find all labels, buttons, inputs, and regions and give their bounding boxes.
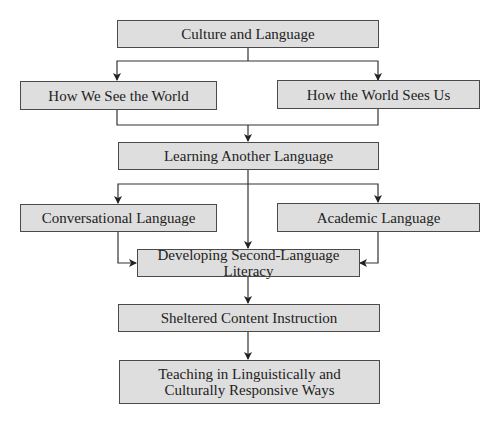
node-label: Culture and Language [181, 26, 314, 42]
node-label: Sheltered Content Instruction [161, 310, 338, 326]
node-label: Conversational Language [42, 210, 196, 226]
node-academic-language: Academic Language [277, 203, 480, 232]
node-culture-and-language: Culture and Language [117, 20, 379, 48]
node-learning-another-language: Learning Another Language [118, 142, 379, 170]
node-conversational-language: Conversational Language [20, 204, 217, 232]
flowchart: Culture and Language How We See the Worl… [0, 0, 500, 421]
node-how-we-see-the-world: How We See the World [20, 81, 217, 110]
node-teaching-responsive-ways: Teaching in Linguistically and Culturall… [119, 360, 380, 404]
node-label: Developing Second-Language Literacy [142, 247, 355, 279]
node-label: Academic Language [317, 210, 441, 226]
edge-how-we-see-down [117, 109, 378, 125]
node-label-line2: Culturally Responsive Ways [164, 382, 334, 398]
edge-academic-to-developing [360, 231, 378, 263]
edge-culture-to-world-sees-us [248, 61, 378, 80]
node-label: How the World Sees Us [307, 87, 451, 103]
node-developing-second-language-literacy: Developing Second-Language Literacy [137, 249, 360, 277]
node-sheltered-content-instruction: Sheltered Content Instruction [118, 304, 380, 332]
edge-conversational-to-developing [118, 231, 136, 263]
node-label-line1: Teaching in Linguistically and [158, 366, 341, 382]
node-how-the-world-sees-us: How the World Sees Us [277, 80, 480, 109]
edge-learning-to-academic [248, 184, 378, 202]
edge-learning-to-conversational [118, 184, 248, 203]
node-label: Learning Another Language [164, 148, 333, 164]
edge-culture-to-how-we-see [117, 61, 248, 80]
node-label: How We See the World [48, 88, 188, 104]
